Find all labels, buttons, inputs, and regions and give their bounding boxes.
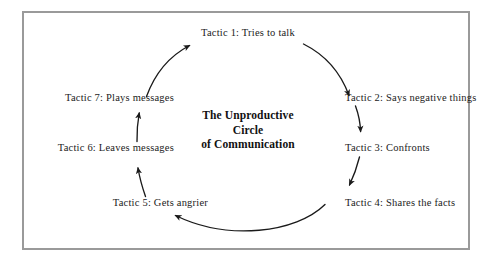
- center-title-line-2: Circle: [201, 123, 295, 138]
- node-label-tactic-3: Tactic 3: Confronts: [345, 142, 430, 154]
- node-label-tactic-7: Tactic 7: Plays messages: [65, 92, 174, 104]
- figure-root: Tactic 1: Tries to talk Tactic 2: Says n…: [0, 0, 496, 271]
- node-label-tactic-6: Tactic 6: Leaves messages: [58, 142, 174, 154]
- center-title-line-3: of Communication: [201, 137, 295, 152]
- node-label-tactic-1: Tactic 1: Tries to talk: [201, 27, 295, 39]
- center-title-line-1: The Unproductive: [201, 108, 295, 123]
- node-label-tactic-5: Tactic 5: Gets angrier: [113, 197, 208, 209]
- node-label-tactic-2: Tactic 2: Says negative things: [345, 92, 477, 104]
- center-title: The Unproductive Circle of Communication: [201, 108, 295, 152]
- node-label-tactic-4: Tactic 4: Shares the facts: [345, 197, 455, 209]
